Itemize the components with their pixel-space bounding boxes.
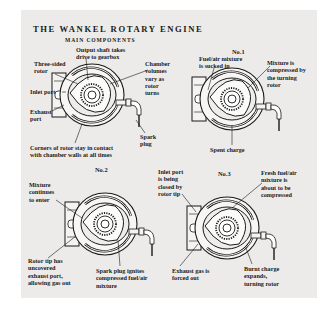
label-burnt-charge: Burnt chargeexpands,turning rotor xyxy=(244,265,279,287)
label-inlet-port: Inlet port xyxy=(30,88,55,95)
label-spark-plug: Sparkplug xyxy=(140,133,156,148)
main-components-heading: MAIN COMPONENTS xyxy=(65,37,136,44)
label-chamber-volumes: Chambervolumesvary asrotorturns xyxy=(145,60,170,96)
label-exhaust-forced: Exhaust gas isforced out xyxy=(172,267,209,282)
label-mixture-compressed: Mixture iscompressed bythe turningrotor xyxy=(267,59,306,88)
engine-main-components-icon xyxy=(92,95,93,96)
label-mixture-continues: Mixturecontinuesto enter xyxy=(29,181,54,203)
label-exhaust-port: Exhaustport xyxy=(30,108,52,123)
label-spark-ignites: Spark plug ignitescompressed fuel/airmix… xyxy=(96,267,148,289)
diagram-title: THE WANKEL ROTARY ENGINE xyxy=(33,24,203,34)
label-rotor-tip-exhaust: Rotor tip hasuncoveredexhaust port,allow… xyxy=(28,257,71,286)
engine-stage-2-icon xyxy=(105,224,106,225)
label-fresh-mixture: Fresh fuel/airmixture isabout to becompr… xyxy=(261,169,297,198)
stage-3-heading: No.3 xyxy=(218,170,231,177)
label-inlet-closing: Inlet portis beingclosed byrotor tip xyxy=(158,168,183,197)
engine-stage-1-icon xyxy=(232,99,233,100)
engine-stage-3-icon xyxy=(227,228,228,229)
label-fuel-sucked-in: Fuel/air mixtureis sucked in xyxy=(199,55,242,70)
stage-2-heading: No.2 xyxy=(95,166,108,173)
label-three-sided-rotor: Three-sidedrotor xyxy=(34,60,66,75)
label-output-shaft: Output shaft takesdrive to gearbox xyxy=(76,46,125,61)
label-spent-charge: Spent charge xyxy=(210,146,245,153)
label-rotor-corners: Corners of rotor stay in contactwith cha… xyxy=(30,144,113,159)
